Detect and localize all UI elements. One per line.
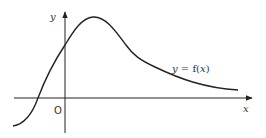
x-axis-label: x	[243, 103, 249, 114]
function-graph: y x O y = f(x)	[0, 0, 266, 138]
origin-label: O	[54, 105, 62, 116]
y-axis-label: y	[49, 11, 56, 22]
curve-label: y = f(x)	[171, 63, 210, 74]
curve-label-close: )	[206, 63, 210, 74]
curve-label-eq: = f(	[178, 63, 200, 74]
